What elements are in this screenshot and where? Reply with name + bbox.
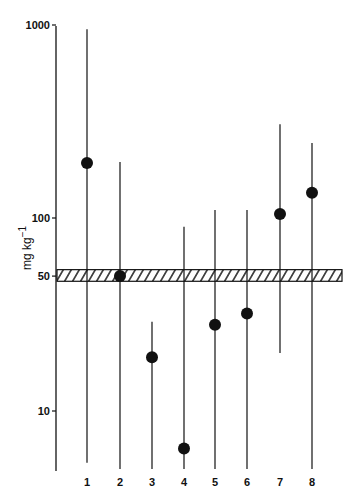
y-axis-label: mg kg−1 [17,226,34,271]
data-point [274,208,286,220]
x-category-label: 8 [309,476,315,488]
y-tick-label: 1000 [26,19,50,31]
x-category-label: 5 [212,476,218,488]
hatched-band [57,270,342,282]
x-category-label: 2 [117,476,123,488]
data-point [209,319,221,331]
x-category-label: 1 [84,476,90,488]
data-points [81,157,318,455]
x-category-label: 7 [277,476,283,488]
x-category-labels: 12345678 [84,476,315,488]
data-point [114,270,126,282]
data-point [178,442,190,454]
x-category-label: 6 [244,476,250,488]
chart-canvas: 10001005010 12345678 mg kg−1 [0,0,358,501]
x-category-label: 4 [181,476,188,488]
y-axis-title: mg kg−1 [17,226,34,271]
y-tick-label: 100 [32,212,50,224]
data-point [241,308,253,320]
data-point [306,187,318,199]
data-point [146,351,158,363]
y-tick-label: 10 [38,405,50,417]
x-category-label: 3 [149,476,155,488]
reference-band [57,270,342,282]
data-point [81,157,93,169]
y-tick-label: 50 [38,270,50,282]
range-lines [87,29,312,469]
